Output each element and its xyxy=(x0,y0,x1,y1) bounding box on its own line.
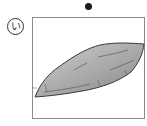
sweet-potato-icon xyxy=(0,0,147,126)
